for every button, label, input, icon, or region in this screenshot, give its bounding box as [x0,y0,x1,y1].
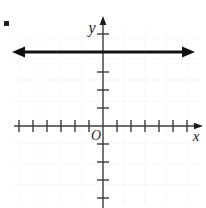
x-axis-label: x [192,128,200,144]
bullet-marker-icon [4,21,9,26]
coordinate-plane-figure: y x O [0,0,206,208]
graph-svg: y x O [0,0,206,208]
origin-label: O [91,128,101,143]
y-axis-label: y [86,19,96,37]
